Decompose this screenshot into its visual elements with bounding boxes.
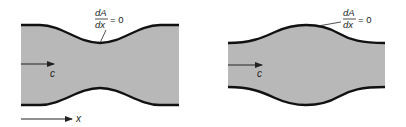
svg-text:= 0: = 0 — [110, 14, 123, 25]
svg-text:= 0: = 0 — [358, 14, 371, 25]
left-velocity-label: c — [50, 68, 55, 79]
right-duct: c dA dx = 0 — [228, 7, 385, 105]
svg-text:dx: dx — [343, 19, 354, 30]
nozzle-diagram: c dA dx = 0 c dA dx = 0 x — [0, 0, 406, 127]
right-leader-line — [318, 22, 341, 26]
svg-text:dA: dA — [343, 7, 355, 18]
left-duct: c dA dx = 0 — [21, 7, 179, 105]
right-condition-label: dA dx = 0 — [343, 7, 371, 30]
left-condition-label: dA dx = 0 — [95, 7, 123, 30]
left-duct-fill — [21, 25, 179, 105]
x-axis-label: x — [75, 113, 82, 124]
right-velocity-label: c — [257, 68, 262, 79]
svg-text:dA: dA — [95, 7, 107, 18]
left-leader-line — [100, 30, 106, 43]
svg-text:dx: dx — [95, 19, 106, 30]
